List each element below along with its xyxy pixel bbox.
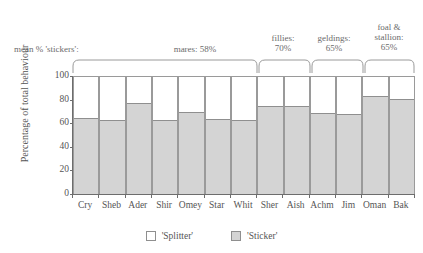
bar-oman bbox=[362, 76, 388, 194]
chart-figure: mean % 'stickers': mares: 58% fillies: 7… bbox=[0, 0, 423, 253]
bar-sticker-segment bbox=[74, 118, 98, 194]
bar-sticker-segment bbox=[206, 119, 230, 194]
y-tick-label-80: 80 bbox=[51, 95, 69, 105]
y-tick-mark-20 bbox=[70, 170, 74, 171]
bar-sticker-segment bbox=[153, 120, 177, 194]
bar-sher bbox=[257, 76, 283, 194]
x-tick-mark bbox=[282, 194, 283, 198]
x-axis-label-whit: Whit bbox=[230, 199, 256, 213]
x-axis-ticks bbox=[72, 194, 414, 198]
bar-jim bbox=[336, 76, 362, 194]
x-tick-mark bbox=[414, 194, 415, 198]
bar-sticker-segment bbox=[311, 113, 335, 194]
bar-sheb bbox=[99, 76, 125, 194]
x-tick-mark bbox=[388, 194, 389, 198]
y-tick-mark-100 bbox=[70, 76, 74, 77]
y-tick-label-60: 60 bbox=[51, 118, 69, 128]
y-tick-mark-60 bbox=[70, 123, 74, 124]
bar-sticker-segment bbox=[337, 114, 361, 194]
legend-swatch-splitter bbox=[146, 231, 156, 241]
x-tick-mark bbox=[72, 194, 73, 198]
group-bracket-fillies bbox=[258, 59, 311, 73]
bar-sticker-segment bbox=[127, 103, 151, 194]
x-axis-label-bak: Bak bbox=[388, 199, 414, 213]
x-tick-mark bbox=[151, 194, 152, 198]
bars-container bbox=[73, 76, 415, 194]
group-bracket-foal-stallion bbox=[364, 59, 415, 73]
bar-sticker-segment bbox=[285, 106, 309, 194]
x-axis-label-sheb: Sheb bbox=[98, 199, 124, 213]
chart-legend: 'Splitter' 'Sticker' bbox=[0, 231, 423, 241]
legend-swatch-sticker bbox=[231, 231, 241, 241]
x-tick-mark bbox=[125, 194, 126, 198]
x-axis-label-omey: Omey bbox=[177, 199, 203, 213]
y-axis-title: Percentage of total behaviour bbox=[19, 39, 30, 169]
bar-sticker-segment bbox=[232, 120, 256, 194]
x-axis-label-oman: Oman bbox=[361, 199, 387, 213]
bar-sticker-segment bbox=[390, 99, 414, 194]
y-tick-label-0: 0 bbox=[51, 189, 69, 199]
y-tick-mark-40 bbox=[70, 147, 74, 148]
group-label-fillies: fillies: 70% bbox=[258, 33, 308, 53]
plot-area: 020406080100 bbox=[72, 76, 415, 195]
x-axis-label-aish: Aish bbox=[283, 199, 309, 213]
legend-item-splitter: 'Splitter' bbox=[146, 231, 193, 241]
group-label-geldings: geldings: 65% bbox=[307, 33, 361, 53]
x-axis-labels: CryShebAderShirOmeyStarWhitSherAishAchmJ… bbox=[72, 199, 414, 213]
bar-bak bbox=[389, 76, 415, 194]
bar-sticker-segment bbox=[258, 106, 282, 194]
y-tick-label-20: 20 bbox=[51, 165, 69, 175]
group-bracket-mares bbox=[72, 59, 258, 73]
x-axis-label-shir: Shir bbox=[151, 199, 177, 213]
bar-cry bbox=[73, 76, 99, 194]
y-tick-mark-80 bbox=[70, 100, 74, 101]
bar-ader bbox=[126, 76, 152, 194]
x-axis-label-ader: Ader bbox=[125, 199, 151, 213]
group-label-foal-stallion: foal & stallion: 65% bbox=[361, 22, 417, 52]
group-label-mares: mares: 58% bbox=[150, 44, 240, 54]
bar-sticker-segment bbox=[363, 96, 387, 194]
legend-label-splitter: 'Splitter' bbox=[162, 231, 193, 241]
bar-sticker-segment bbox=[100, 120, 124, 194]
x-axis-label-jim: Jim bbox=[335, 199, 361, 213]
y-tick-label-100: 100 bbox=[51, 71, 69, 81]
bar-achm bbox=[310, 76, 336, 194]
x-tick-mark bbox=[204, 194, 205, 198]
x-tick-mark bbox=[230, 194, 231, 198]
x-axis-label-star: Star bbox=[204, 199, 230, 213]
x-tick-mark bbox=[309, 194, 310, 198]
bar-shir bbox=[152, 76, 178, 194]
bar-whit bbox=[231, 76, 257, 194]
legend-item-sticker: 'Sticker' bbox=[231, 231, 277, 241]
y-tick-label-40: 40 bbox=[51, 142, 69, 152]
bar-aish bbox=[284, 76, 310, 194]
x-axis-label-cry: Cry bbox=[72, 199, 98, 213]
x-axis-label-sher: Sher bbox=[256, 199, 282, 213]
x-tick-mark bbox=[256, 194, 257, 198]
bar-star bbox=[205, 76, 231, 194]
x-tick-mark bbox=[361, 194, 362, 198]
x-tick-mark bbox=[335, 194, 336, 198]
x-tick-mark bbox=[177, 194, 178, 198]
group-bracket-geldings bbox=[311, 59, 364, 73]
x-axis-label-achm: Achm bbox=[309, 199, 335, 213]
bar-omey bbox=[178, 76, 204, 194]
bar-sticker-segment bbox=[179, 112, 203, 194]
x-tick-mark bbox=[98, 194, 99, 198]
legend-label-sticker: 'Sticker' bbox=[247, 231, 277, 241]
